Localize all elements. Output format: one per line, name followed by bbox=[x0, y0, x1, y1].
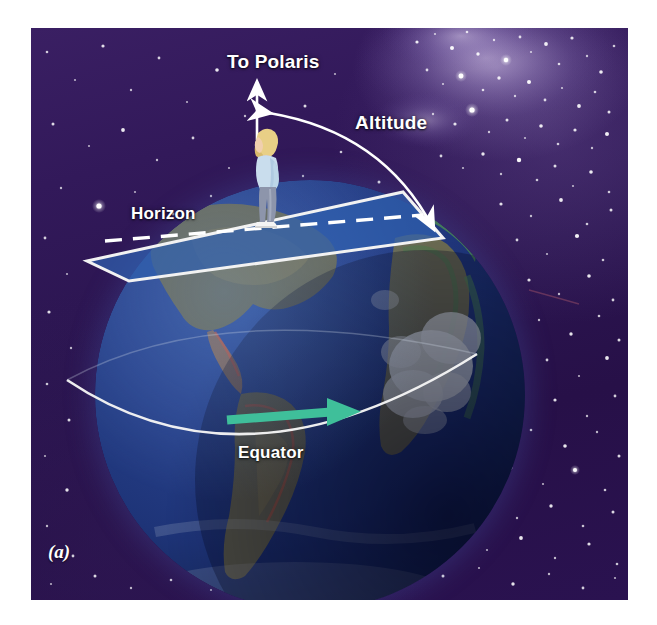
observer-figure bbox=[236, 123, 292, 233]
observer-body bbox=[255, 129, 279, 228]
label-to-polaris: To Polaris bbox=[227, 51, 319, 73]
panel-label: (a) bbox=[48, 541, 70, 563]
earth-globe bbox=[95, 180, 525, 600]
astronomy-diagram-artwork: To Polaris Altitude Horizon Equator (a) bbox=[31, 28, 628, 600]
label-equator: Equator bbox=[238, 443, 304, 463]
label-horizon: Horizon bbox=[131, 204, 196, 224]
earth-shading bbox=[95, 180, 525, 600]
label-altitude: Altitude bbox=[355, 112, 427, 134]
red-wisp bbox=[529, 290, 579, 304]
observer-pants bbox=[259, 187, 277, 223]
figure-root: To Polaris Altitude Horizon Equator (a) bbox=[0, 0, 657, 625]
